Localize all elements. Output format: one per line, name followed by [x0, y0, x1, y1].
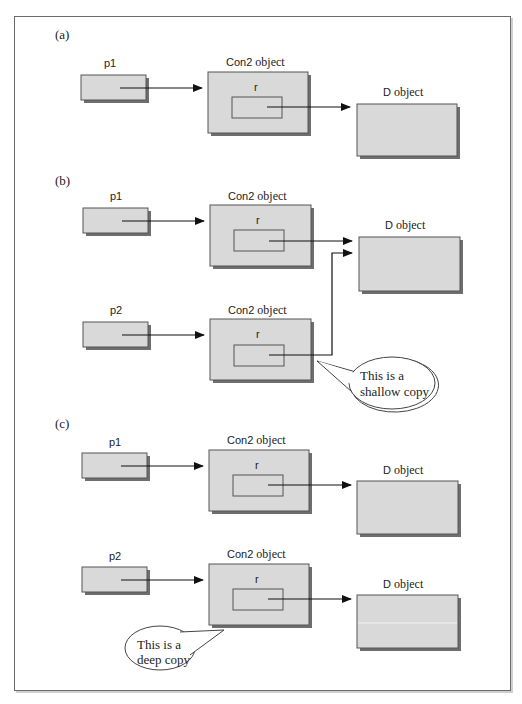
member-label-r: r	[255, 459, 259, 471]
panel-label: (b)	[55, 173, 70, 188]
con2-object-title: Con2 object	[227, 433, 286, 447]
pointer-label: p1	[104, 57, 116, 69]
panel-b: (b) p1 Con2 object r D object p2 Con2 ob…	[55, 173, 463, 412]
member-label-r: r	[255, 573, 259, 585]
member-label-r: r	[256, 328, 260, 340]
member-label-r: r	[254, 81, 258, 93]
con2-object-box	[210, 205, 311, 266]
copy-semantics-diagram: (a) p1 Con2 object r D object (b) p1 Con…	[0, 0, 522, 704]
pointer-label: p1	[110, 190, 122, 202]
pointer-label: p1	[109, 436, 121, 448]
d-object-box	[359, 237, 460, 291]
member-label-r: r	[256, 214, 260, 226]
panel-c: (c) p1 Con2 object r D object p2 Con2 ob…	[55, 416, 461, 670]
d-object-title: D object	[383, 85, 424, 99]
callout-line2: deep copy	[137, 652, 191, 667]
d-object-box	[357, 595, 458, 648]
pointer-label: p2	[109, 550, 121, 562]
con2-object-title: Con2 object	[228, 303, 287, 317]
con2-object-title: Con2 object	[226, 55, 285, 69]
shallow-copy-callout: This is a shallow copy	[317, 357, 439, 412]
d-object-box	[357, 481, 458, 534]
d-object-title: D object	[383, 463, 424, 477]
d-object-box	[357, 104, 457, 156]
d-object-title: D object	[383, 577, 424, 591]
panel-label: (c)	[55, 416, 69, 431]
callout-line2: shallow copy	[360, 384, 429, 399]
d-object-title: D object	[385, 218, 426, 232]
con2-object-box	[210, 319, 311, 380]
callout-line1: This is a	[137, 637, 181, 652]
con2-object-box	[208, 72, 308, 133]
con2-object-box	[209, 564, 309, 625]
con2-object-box	[209, 450, 309, 511]
callout-line1: This is a	[360, 368, 404, 383]
panel-label: (a)	[55, 27, 69, 42]
con2-object-title: Con2 object	[227, 547, 286, 561]
panel-a: (a) p1 Con2 object r D object	[55, 27, 460, 159]
pointer-label: p2	[110, 304, 122, 316]
con2-object-title: Con2 object	[228, 189, 287, 203]
deep-copy-callout: This is a deep copy	[125, 626, 224, 670]
